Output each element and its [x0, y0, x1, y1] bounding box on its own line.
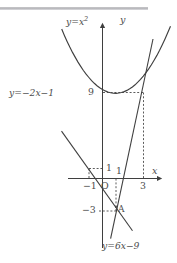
point-a-marker — [115, 206, 117, 208]
origin-label: O — [101, 181, 109, 190]
parabola-curve — [62, 26, 171, 93]
point-a-label: A — [118, 205, 125, 214]
x-tick-label-1: 1 — [116, 166, 122, 175]
parabola-equation-label: y=x2 — [66, 16, 88, 26]
y-tick-label-9: 9 — [88, 87, 94, 96]
x-tick-label-3: 3 — [140, 181, 146, 190]
parabola-exponent: 2 — [84, 15, 88, 23]
tangent-line-right — [111, 39, 153, 239]
dashed-guides — [89, 93, 144, 212]
x-tick-label-negative-1: −1 — [83, 181, 97, 190]
tangent-right-equation-label: y=6x−9 — [102, 241, 139, 250]
y-axis-label: y — [120, 15, 125, 25]
graph-canvas — [0, 0, 177, 263]
tangent-line-left — [62, 131, 133, 231]
x-axis-label: x — [152, 166, 157, 176]
y-tick-label-1: 1 — [106, 163, 112, 172]
tangent-left-equation-label: y=−2x−1 — [9, 88, 54, 97]
math-figure: y=x2 y x y=−2x−1 y=6x−9 9 −3 1 1 −1 3 O … — [0, 0, 177, 263]
y-tick-label-negative-3: −3 — [82, 205, 96, 214]
